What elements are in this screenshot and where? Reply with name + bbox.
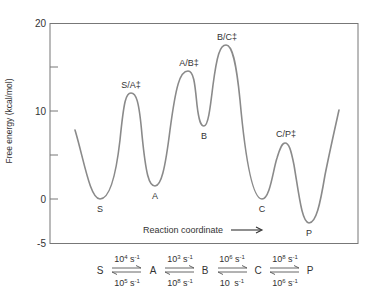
rate-reverse-3: 10 s-1 [220,278,245,289]
rate-reverse-2: 108 s-1 [167,278,193,289]
energy-diagram: 20 10 0 -5 Free energy (kcal/mol) S A B … [0,0,381,303]
scheme-species-s: S [97,265,104,276]
scheme-species-b: B [202,265,209,276]
rate-forward-3: 106 s-1 [219,254,245,265]
state-label-b: B [201,131,207,141]
y-tick-label-10: 10 [35,106,47,117]
rate-reverse-1: 105 s-1 [114,278,140,289]
state-label-a: A [152,191,158,201]
state-label-p: P [306,228,312,238]
ts-label-b-c: B/C‡ [217,32,237,42]
reaction-coordinate-arrow-icon [231,227,262,233]
rate-forward-4: 108 s-1 [272,254,298,265]
y-tick-label-0: 0 [40,194,46,205]
y-axis-title: Free energy (kcal/mol) [4,78,14,163]
scheme-species-a: A [150,265,157,276]
kinetic-scheme: S A B C P 104 s-1 105 s-1 103 s-1 108 s-… [97,254,314,289]
ts-label-s-a: S/A‡ [121,80,141,90]
scheme-species-p: P [307,265,314,276]
rate-forward-1: 104 s-1 [114,254,140,265]
state-label-c: C [259,204,266,214]
rate-forward-2: 103 s-1 [167,254,193,265]
state-labels: S A B C P [97,131,312,238]
scheme-species-c: C [254,265,261,276]
ts-label-c-p: C/P‡ [276,129,296,139]
y-tick-label-minus5: -5 [37,238,46,249]
state-label-s: S [97,204,103,214]
y-tick-label-20: 20 [35,18,47,29]
ts-label-a-b: A/B‡ [179,58,199,68]
transition-state-labels: S/A‡ A/B‡ B/C‡ C/P‡ [121,32,296,139]
x-axis-title: Reaction coordinate [143,225,223,235]
rate-reverse-4: 106 s-1 [272,278,298,289]
